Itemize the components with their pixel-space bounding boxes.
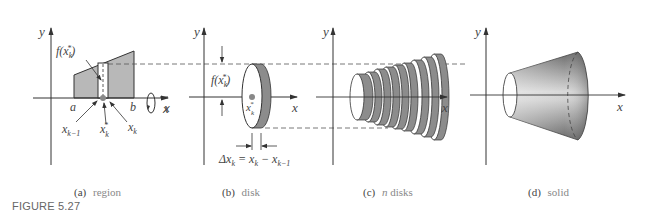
- f-label: f(xk*): [56, 44, 75, 60]
- x-axis-label: x: [616, 99, 623, 114]
- delta-x-formula: Δxk = xk − xk−1: [218, 152, 290, 168]
- label-xk: xk: [127, 120, 137, 136]
- panel-a-region: y x f(xk*) a b xk−1 xk* xk: [33, 24, 169, 165]
- panel-b-disk: y x x xk* f(xk*) Δxk = xk − xk−1: [163, 24, 298, 168]
- caption-a: (a) region: [74, 186, 121, 198]
- label-xkm1: xk−1: [61, 122, 80, 138]
- x-axis-label-left: x: [163, 100, 170, 115]
- caption-b: (b) disk: [222, 186, 260, 198]
- y-axis-label: y: [37, 24, 45, 39]
- sample-point: [100, 95, 106, 101]
- x-axis-label: x: [291, 100, 298, 115]
- caption-d: (d) solid: [528, 186, 569, 198]
- caption-c: (c) n disks: [363, 186, 413, 198]
- rotation-icon: [147, 93, 155, 113]
- y-axis-label: y: [192, 24, 200, 39]
- arrow-xkm1: [76, 101, 97, 122]
- y-axis-label: y: [473, 24, 481, 39]
- figure-label: FIGURE 5.27: [12, 200, 80, 212]
- label-b: b: [130, 100, 136, 114]
- label-xkstar: xk*: [99, 121, 109, 139]
- panel-c-n-disks: y x: [316, 24, 449, 165]
- panel-d-solid: y x: [470, 24, 625, 165]
- x-axis-label: x: [441, 100, 448, 115]
- figure-5-27: y x f(xk*) a b xk−1 xk* xk y x x: [0, 0, 655, 222]
- radius-label: f(xk*): [211, 73, 230, 89]
- arrow-xk: [110, 102, 127, 122]
- label-a: a: [70, 100, 76, 114]
- y-axis-label: y: [321, 24, 329, 39]
